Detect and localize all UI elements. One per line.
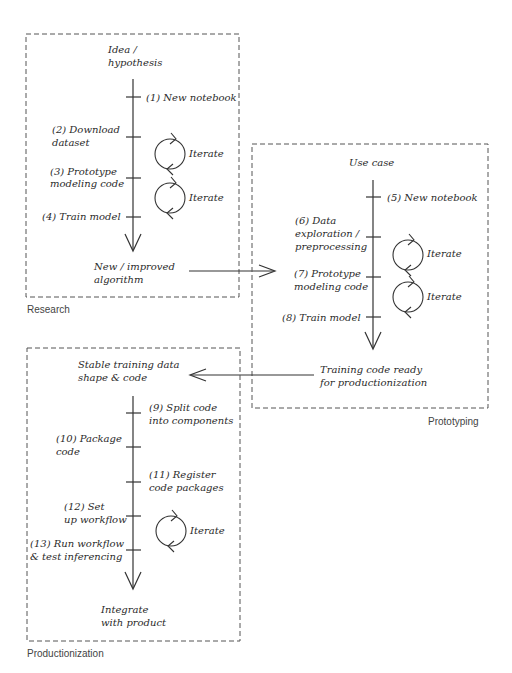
productionization-panel: Productionization Stable training data s…: [27, 348, 240, 659]
research-panel: Research Idea / hypothesis (1) New noteb…: [26, 34, 239, 315]
iterate-cycle-icon: [393, 234, 423, 276]
research-step-1: (1) New notebook: [146, 92, 237, 103]
prototyping-end-label: Training code ready: [320, 364, 422, 375]
iterate-cycle-icon: [155, 177, 185, 219]
prototyping-iterate-1: Iterate: [426, 248, 462, 259]
research-iterate-1: Iterate: [188, 148, 224, 159]
prototyping-end-label-2: for productionization: [319, 377, 427, 388]
productionization-iterate: Iterate: [189, 525, 225, 536]
research-end-label-2: algorithm: [94, 274, 144, 285]
productionization-step-11b: code packages: [149, 482, 224, 493]
research-caption: Research: [27, 304, 70, 315]
prototyping-step-7: (7) Prototype: [294, 268, 361, 279]
productionization-start-label-2: shape & code: [78, 372, 147, 383]
research-step-3b: modeling code: [50, 178, 124, 189]
connector-research-to-prototyping: [189, 265, 275, 277]
prototyping-caption: Prototyping: [428, 416, 479, 427]
prototyping-step-6: (6) Data: [295, 215, 336, 226]
productionization-step-10b: code: [56, 446, 80, 457]
prototyping-step-6c: preprocessing: [295, 241, 367, 252]
prototyping-panel: Prototyping Use case (5) New notebook (6…: [252, 144, 488, 427]
productionization-end-label: Integrate: [100, 604, 148, 615]
research-end-label: New / improved: [93, 261, 175, 272]
research-start-label-2: hypothesis: [108, 57, 162, 68]
productionization-step-13b: & test inferencing: [30, 551, 122, 562]
research-start-label: Idea /: [107, 44, 138, 55]
research-iterate-2: Iterate: [188, 192, 224, 203]
research-step-4: (4) Train model: [42, 211, 121, 222]
prototyping-start-label: Use case: [349, 157, 394, 168]
productionization-step-9b: into components: [149, 415, 233, 426]
prototyping-step-6b: exploration /: [295, 228, 361, 239]
research-step-2: (2) Download: [52, 124, 120, 135]
productionization-step-13: (13) Run workflow: [30, 538, 124, 549]
productionization-caption: Productionization: [27, 648, 104, 659]
research-step-3: (3) Prototype: [50, 166, 117, 177]
iterate-cycle-icon: [155, 133, 185, 175]
research-step-2b: dataset: [52, 137, 90, 148]
prototyping-iterate-2: Iterate: [426, 291, 462, 302]
prototyping-step-7b: modeling code: [294, 281, 368, 292]
prototyping-step-8: (8) Train model: [282, 312, 361, 323]
productionization-start-label: Stable training data: [78, 359, 180, 370]
productionization-step-12: (12) Set: [64, 501, 105, 512]
productionization-end-label-2: with product: [101, 617, 167, 628]
prototyping-step-5: (5) New notebook: [387, 192, 478, 203]
productionization-step-12b: up workflow: [64, 514, 127, 525]
productionization-step-9: (9) Split code: [149, 402, 217, 413]
iterate-cycle-icon: [156, 510, 186, 552]
productionization-step-11: (11) Register: [149, 469, 217, 480]
iterate-cycle-icon: [393, 276, 423, 318]
productionization-step-10: (10) Package: [56, 433, 122, 444]
